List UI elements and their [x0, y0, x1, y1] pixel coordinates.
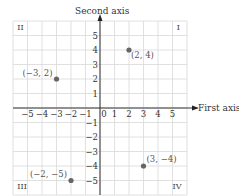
x-tick-label: 2 [126, 109, 131, 119]
point-label: (3, −4) [147, 154, 177, 164]
x-axis-label: First axis [198, 103, 239, 113]
x-tick-label: −2 [65, 109, 78, 119]
data-point [54, 76, 59, 81]
point-label: (2, 4) [131, 50, 154, 60]
quadrant-label-II: II [17, 23, 23, 32]
point-label: (−2, −5) [30, 169, 67, 179]
x-tick-label: −5 [21, 109, 34, 119]
quadrant-label-I: I [177, 23, 180, 32]
x-tick-label: 4 [155, 109, 160, 119]
y-tick-label: −1 [85, 118, 98, 128]
y-tick-label: 3 [93, 60, 98, 70]
y-tick-label: 2 [93, 74, 98, 84]
y-tick-label: 1 [93, 89, 98, 99]
y-tick-label: −4 [85, 161, 98, 171]
x-tick-label: 3 [141, 109, 146, 119]
quadrant-label-IV: IV [173, 182, 182, 191]
data-point [141, 163, 146, 168]
y-tick-label: −2 [85, 132, 98, 142]
x-tick-label: 0 [101, 109, 106, 119]
point-label: (−3, 2) [23, 68, 53, 78]
y-tick-label: 5 [93, 31, 98, 41]
x-tick-label: −4 [36, 109, 49, 119]
data-point [68, 178, 73, 183]
y-tick-label: 4 [93, 45, 98, 55]
y-tick-label: −3 [85, 147, 98, 157]
quadrant-label-III: III [17, 182, 26, 191]
x-tick-label: 1 [112, 109, 117, 119]
coordinate-plane: −5−4−3−2−101234554321−1−2−3−4−5 IIIIIIIV… [0, 0, 239, 196]
x-tick-label: −3 [50, 109, 63, 119]
x-tick-label: 5 [170, 109, 175, 119]
y-tick-label: −5 [85, 176, 98, 186]
y-axis-label: Second axis [75, 6, 130, 16]
